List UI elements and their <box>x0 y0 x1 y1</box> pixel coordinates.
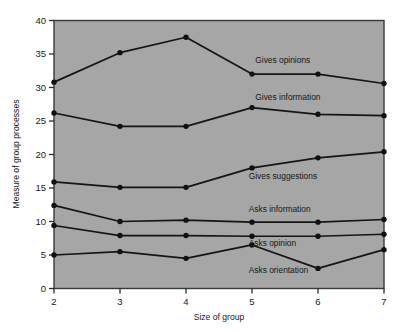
series-point <box>51 203 56 208</box>
series-point <box>51 179 56 184</box>
y-axis-title: Measure of group processes <box>11 100 21 209</box>
x-tick-label: 3 <box>117 296 122 307</box>
series-point <box>183 233 188 238</box>
series-point <box>315 71 320 76</box>
line-chart: 0510152025303540 234567 Gives opinionsGi… <box>0 0 409 331</box>
series-point <box>183 35 188 40</box>
series-point <box>51 223 56 228</box>
series-point <box>117 249 122 254</box>
x-tick-label: 5 <box>249 296 254 307</box>
series-point <box>249 165 254 170</box>
series-label-3: Asks information <box>249 204 311 214</box>
series-point <box>315 219 320 224</box>
series-point <box>381 113 386 118</box>
series-point <box>117 185 122 190</box>
series-point <box>183 217 188 222</box>
series-point <box>381 232 386 237</box>
series-point <box>381 247 386 252</box>
series-point <box>315 234 320 239</box>
series-point <box>117 219 122 224</box>
series-point <box>381 217 386 222</box>
y-tick-label: 0 <box>41 283 46 294</box>
y-tick-label: 25 <box>35 115 46 126</box>
series-point <box>51 252 56 257</box>
series-point <box>315 266 320 271</box>
series-point <box>315 112 320 117</box>
series-point <box>117 233 122 238</box>
series-point <box>381 81 386 86</box>
y-tick-label: 15 <box>35 182 46 193</box>
chart-figure: 0510152025303540 234567 Gives opinionsGi… <box>0 0 409 331</box>
x-axis-title: Size of group <box>194 312 245 322</box>
y-tick-label: 10 <box>35 216 46 227</box>
y-tick-label: 20 <box>35 149 46 160</box>
x-tick-label: 6 <box>315 296 320 307</box>
x-tick-label: 4 <box>183 296 188 307</box>
series-point <box>249 71 254 76</box>
series-point <box>381 149 386 154</box>
series-label-2: Gives suggestions <box>249 171 317 181</box>
x-tick-label: 7 <box>381 296 386 307</box>
y-tick-label: 40 <box>35 15 46 26</box>
series-point <box>117 50 122 55</box>
series-label-4: Asks opinion <box>249 238 297 248</box>
y-tick-label: 35 <box>35 48 46 59</box>
series-point <box>117 124 122 129</box>
series-point <box>249 105 254 110</box>
series-label-1: Gives information <box>255 92 321 102</box>
series-point <box>183 124 188 129</box>
series-point <box>51 79 56 84</box>
series-label-0: Gives opinions <box>255 55 310 65</box>
series-label-5: Asks orientation <box>249 265 309 275</box>
series-point <box>315 155 320 160</box>
y-tick-label: 5 <box>41 249 46 260</box>
series-point <box>183 256 188 261</box>
series-point <box>183 185 188 190</box>
series-point <box>51 110 56 115</box>
x-tick-label: 2 <box>51 296 56 307</box>
series-point <box>249 219 254 224</box>
y-tick-label: 30 <box>35 82 46 93</box>
